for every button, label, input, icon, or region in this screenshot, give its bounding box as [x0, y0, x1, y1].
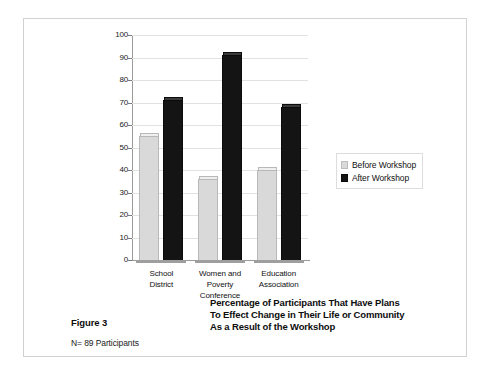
y-tick-label: 100	[84, 31, 128, 39]
caption-line-1: Percentage of Participants That Have Pla…	[210, 297, 404, 309]
figure-caption: Percentage of Participants That Have Pla…	[210, 297, 404, 333]
bar-front-face	[222, 55, 242, 260]
bar-after-workshop	[163, 100, 183, 260]
y-tick-label: 30	[84, 189, 128, 197]
y-tick-mark	[128, 260, 132, 261]
y-tick-label: 50	[84, 144, 128, 152]
y-tick-label: 10	[84, 234, 128, 242]
bar-front-face	[139, 136, 159, 260]
bar-front-face	[257, 170, 277, 260]
bar-after-workshop	[222, 55, 242, 260]
bar-base-shadow	[136, 260, 186, 263]
y-tick-label: 60	[84, 121, 128, 129]
x-category-label: EducationAssociation	[249, 268, 308, 290]
bar-after-workshop	[281, 107, 301, 260]
y-tick-label: 90	[84, 54, 128, 62]
y-tick-label: 70	[84, 99, 128, 107]
figure-root: 0102030405060708090100 SchoolDistrictWom…	[0, 0, 494, 379]
y-tick-label: 80	[84, 76, 128, 84]
legend-label-after: After Workshop	[352, 173, 409, 183]
y-tick-label: 20	[84, 211, 128, 219]
figure-number: Figure 3	[71, 317, 107, 328]
bar-group	[132, 35, 191, 260]
caption-line-3: As a Result of the Workshop	[210, 321, 404, 333]
bar-before-workshop	[257, 170, 277, 260]
legend-label-before: Before Workshop	[352, 160, 416, 170]
y-tick-label: 40	[84, 166, 128, 174]
after-workshop-swatch	[341, 174, 348, 182]
x-category-label-line: Poverty	[191, 279, 250, 290]
legend-item-before: Before Workshop	[341, 158, 416, 171]
legend-item-after: After Workshop	[341, 171, 416, 184]
x-category-label-line: School	[132, 268, 191, 279]
sample-size-note: N= 89 Participants	[71, 338, 139, 348]
x-category-label-line: Education	[249, 268, 308, 279]
bar-before-workshop	[139, 136, 159, 260]
x-category-label-line: Association	[249, 279, 308, 290]
figure-border: 0102030405060708090100 SchoolDistrictWom…	[23, 18, 467, 357]
bar-before-workshop	[198, 179, 218, 260]
bar-front-face	[281, 107, 301, 260]
before-workshop-swatch	[341, 161, 348, 169]
bar-base-shadow	[195, 260, 245, 263]
x-category-label-line: Women and	[191, 268, 250, 279]
caption-line-2: To Effect Change in Their Life or Commun…	[210, 309, 404, 321]
plot-area	[132, 35, 308, 260]
x-category-label: SchoolDistrict	[132, 268, 191, 290]
bar-front-face	[198, 179, 218, 260]
bar-base-shadow	[254, 260, 304, 263]
bar-group	[249, 35, 308, 260]
bar-chart: 0102030405060708090100 SchoolDistrictWom…	[84, 25, 404, 265]
x-category-label-line: District	[132, 279, 191, 290]
bar-group	[191, 35, 250, 260]
bar-front-face	[163, 100, 183, 260]
y-tick-label: 0	[84, 256, 128, 264]
chart-legend: Before Workshop After Workshop	[336, 153, 423, 189]
